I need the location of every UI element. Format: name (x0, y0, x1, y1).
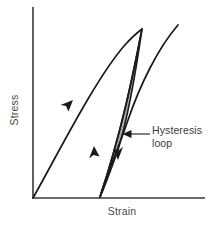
plot-area (0, 0, 216, 225)
loading-direction-arrow (61, 100, 74, 112)
annotation-line-2: loop (152, 137, 214, 150)
stress-strain-hysteresis-figure: Stress Strain Hysteresis loop (0, 0, 216, 225)
axis-frame (33, 7, 205, 198)
unloading-direction-arrow (89, 146, 100, 159)
unloading-curve (100, 29, 142, 197)
y-axis-label: Stress (8, 80, 20, 140)
hysteresis-loop-annotation: Hysteresis loop (152, 124, 214, 149)
annotation-line-1: Hysteresis (152, 124, 214, 137)
hysteresis-loop-region (100, 29, 142, 197)
x-axis-label: Strain (0, 205, 216, 217)
